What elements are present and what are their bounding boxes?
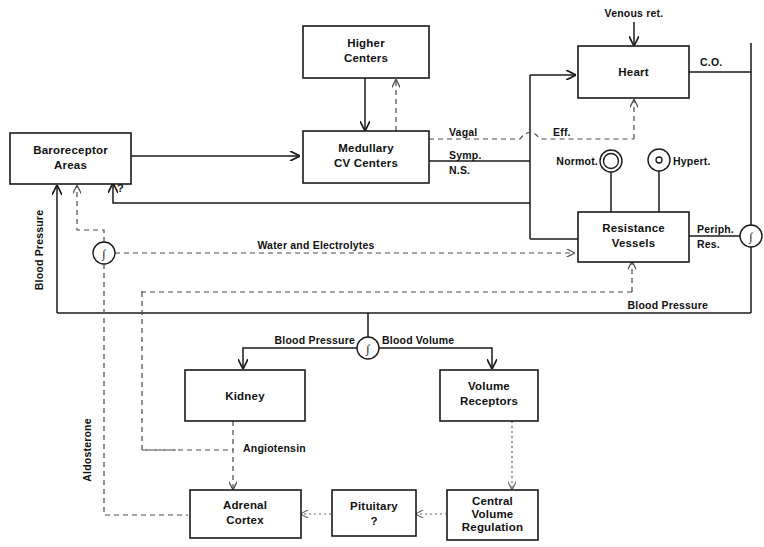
- normotensive-marker: [600, 150, 622, 212]
- label-hypertensive: Hypert.: [673, 155, 711, 167]
- label-vagal: Vagal: [449, 126, 477, 138]
- higher-centers-label-line-2: Centers: [344, 52, 388, 64]
- box-pituitary[interactable]: Pituitary ?: [332, 490, 416, 536]
- integrator-glyph-left: ∫: [101, 247, 106, 261]
- label-water-and-electrolytes: Water and Electrolytes: [257, 239, 374, 251]
- label-blood-pressure-center: Blood Pressure: [275, 334, 355, 346]
- integrator-glyph-center: ∫: [365, 342, 370, 356]
- box-heart[interactable]: Heart: [578, 46, 689, 98]
- integrator-node-left: ∫: [93, 242, 115, 264]
- label-ns: N.S.: [449, 164, 470, 176]
- edge-integrator-to-baroreceptor: [77, 186, 104, 242]
- medullary-cv-centers-label-line-1: Medullary: [338, 142, 394, 154]
- label-eff: Eff.: [553, 126, 571, 138]
- volume-receptors-label-line-1: Volume: [468, 380, 510, 392]
- kidney-label: Kidney: [225, 390, 265, 402]
- box-volume-receptors[interactable]: Volume Receptors: [440, 370, 538, 421]
- resistance-vessels-label-line-2: Vessels: [612, 237, 656, 249]
- blood-pressure-control-diagram: ∫ ∫ ∫ Baroreceptor Areas Higher Centers …: [0, 0, 764, 547]
- pituitary-label-line-1: Pituitary: [350, 500, 398, 512]
- box-baroreceptor-areas[interactable]: Baroreceptor Areas: [10, 133, 131, 184]
- label-blood-volume: Blood Volume: [382, 334, 454, 346]
- label-symp: Symp.: [449, 149, 482, 161]
- central-volume-regulation-label-line-2: Volume: [472, 508, 514, 520]
- integrator-node-right: ∫: [740, 225, 762, 247]
- label-venous-return: Venous ret.: [605, 7, 664, 19]
- adrenal-cortex-label-line-1: Adrenal: [223, 499, 267, 511]
- box-resistance-vessels[interactable]: Resistance Vessels: [578, 212, 689, 262]
- label-resistance: Res.: [697, 238, 720, 250]
- baroreceptor-areas-label-line-2: Areas: [54, 159, 87, 171]
- label-question-mark: ?: [117, 182, 124, 194]
- label-normotensive: Normot.: [556, 155, 598, 167]
- box-medullary-cv-centers[interactable]: Medullary CV Centers: [303, 131, 429, 183]
- label-blood-pressure-vertical: Blood Pressure: [33, 210, 45, 290]
- edge-lower-dashed-bus: [142, 289, 632, 292]
- medullary-cv-centers-label-line-2: CV Centers: [334, 157, 398, 169]
- central-volume-regulation-label-line-1: Central: [472, 495, 513, 507]
- box-higher-centers[interactable]: Higher Centers: [303, 26, 429, 78]
- box-kidney[interactable]: Kidney: [185, 370, 305, 421]
- box-adrenal-cortex[interactable]: Adrenal Cortex: [190, 490, 301, 538]
- box-central-volume-regulation[interactable]: Central Volume Regulation: [447, 490, 538, 540]
- heart-label: Heart: [618, 66, 648, 78]
- edge-lower-bus-left-drop: [142, 292, 176, 450]
- label-peripheral: Periph.: [697, 223, 734, 235]
- volume-receptors-label-line-2: Receptors: [460, 395, 518, 407]
- label-blood-pressure-lower-right: Blood Pressure: [628, 299, 708, 311]
- central-volume-regulation-label-line-3: Regulation: [462, 521, 523, 533]
- edge-bv-to-volume-receptors: [379, 348, 492, 368]
- resistance-vessels-label-line-1: Resistance: [602, 222, 665, 234]
- integrator-node-center: ∫: [357, 337, 379, 359]
- adrenal-cortex-label-line-2: Cortex: [226, 514, 264, 526]
- edge-aldosterone: [104, 264, 188, 515]
- hypertensive-marker: [648, 149, 670, 212]
- integrator-glyph-right: ∫: [748, 230, 753, 244]
- label-angiotensin: Angiotensin: [243, 442, 306, 454]
- label-cardiac-output: C.O.: [700, 56, 722, 68]
- pituitary-label-line-2: ?: [370, 515, 377, 527]
- edge-question-feedback: [113, 184, 530, 203]
- diagram-canvas: ∫ ∫ ∫ Baroreceptor Areas Higher Centers …: [0, 0, 764, 547]
- edge-bp-to-kidney: [243, 348, 357, 368]
- label-aldosterone: Aldosterone: [81, 418, 93, 481]
- baroreceptor-areas-label-line-1: Baroreceptor: [33, 144, 108, 156]
- higher-centers-label-line-1: Higher: [347, 37, 385, 49]
